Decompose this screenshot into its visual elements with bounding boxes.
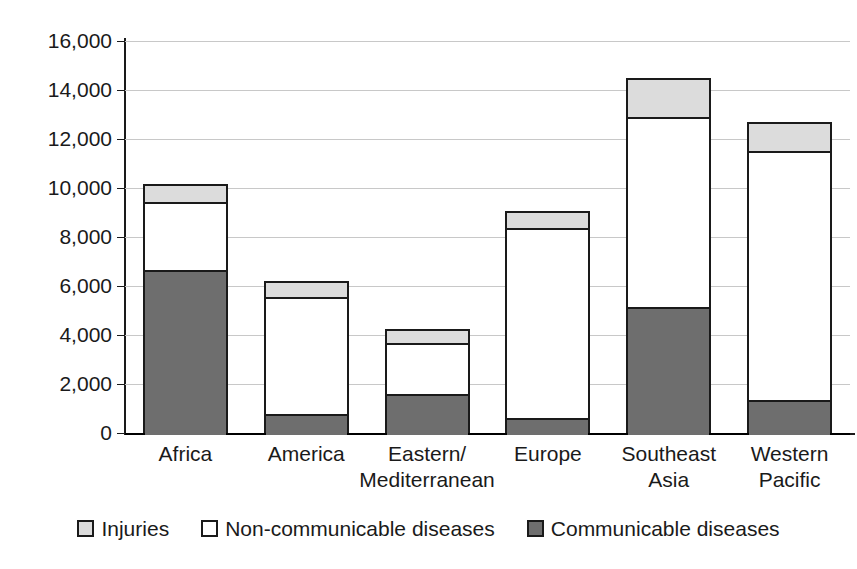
bar-segment-injuries[interactable] (266, 283, 347, 299)
y-axis-tick-mark (117, 41, 124, 42)
y-axis-tick-label: 12,000 (4, 128, 112, 149)
bar-segment-communicable[interactable] (266, 416, 347, 435)
legend-label: Non-communicable diseases (225, 518, 495, 539)
bar-segment-noncommunicable[interactable] (266, 299, 347, 416)
y-axis-tick-label: 16,000 (4, 30, 112, 51)
y-axis-tick-mark (117, 335, 124, 336)
legend-swatch-icon (77, 520, 94, 537)
y-axis-tick-mark (117, 90, 124, 91)
legend-item[interactable]: Communicable diseases (527, 518, 780, 539)
y-axis-tick-mark (117, 188, 124, 189)
legend-item[interactable]: Non-communicable diseases (201, 518, 495, 539)
x-axis-category-labels: AfricaAmericaEastern/MediterraneanEurope… (125, 441, 850, 503)
y-axis-tick-label: 6,000 (4, 275, 112, 296)
category-label-line-2: Mediterranean (349, 467, 506, 493)
y-axis-tick-mark (117, 237, 124, 238)
stacked-bar[interactable] (626, 78, 711, 433)
bar-segment-noncommunicable[interactable] (507, 230, 588, 420)
bar-segment-injuries[interactable] (387, 331, 468, 345)
bar-segment-noncommunicable[interactable] (387, 345, 468, 396)
bar-segment-injuries[interactable] (628, 80, 709, 119)
stacked-bar[interactable] (385, 329, 470, 433)
y-axis-tick-label: 14,000 (4, 79, 112, 100)
bar-segment-communicable[interactable] (145, 272, 226, 435)
legend-label: Injuries (101, 518, 169, 539)
x-axis-category-label: WesternPacific (711, 441, 857, 493)
category-label-line-1: Eastern/ (388, 442, 466, 465)
plot-area (125, 41, 850, 433)
bar-segment-communicable[interactable] (628, 309, 709, 435)
x-axis-line (124, 433, 855, 435)
y-axis-tick-mark (117, 433, 124, 434)
y-axis-tick-labels: 16,00014,00012,00010,0008,0006,0004,0002… (0, 41, 112, 433)
bar-segment-injuries[interactable] (749, 124, 830, 153)
bar-segment-communicable[interactable] (507, 420, 588, 435)
legend-swatch-icon (201, 520, 218, 537)
y-axis-tick-mark (117, 384, 124, 385)
stacked-bar[interactable] (264, 281, 349, 433)
bar-series-container (125, 41, 850, 433)
y-axis-tick-label: 2,000 (4, 373, 112, 394)
y-axis-tick-label: 10,000 (4, 177, 112, 198)
bar-segment-communicable[interactable] (749, 402, 830, 435)
bar-group (626, 41, 711, 433)
bar-group (385, 41, 470, 433)
legend-swatch-icon (527, 520, 544, 537)
stacked-bar-chart-figure: 16,00014,00012,00010,0008,0006,0004,0002… (0, 0, 857, 569)
bar-segment-injuries[interactable] (507, 213, 588, 231)
bar-segment-noncommunicable[interactable] (145, 204, 226, 272)
bar-group (747, 41, 832, 433)
y-axis-tick-label: 4,000 (4, 324, 112, 345)
category-label-line-1: Southeast (621, 442, 716, 465)
chart-legend: InjuriesNon-communicable diseasesCommuni… (0, 518, 857, 539)
category-label-line-2: Pacific (711, 467, 857, 493)
stacked-bar[interactable] (505, 211, 590, 433)
bar-group (143, 41, 228, 433)
y-axis-tick-mark (117, 286, 124, 287)
y-axis-tick-mark (117, 139, 124, 140)
bar-group (505, 41, 590, 433)
bar-segment-injuries[interactable] (145, 186, 226, 204)
category-label-line-1: America (268, 442, 345, 465)
stacked-bar[interactable] (747, 122, 832, 433)
bar-segment-noncommunicable[interactable] (628, 119, 709, 309)
y-axis-tick-label: 0 (4, 422, 112, 443)
category-label-line-1: Africa (159, 442, 213, 465)
category-label-line-1: Europe (514, 442, 582, 465)
legend-item[interactable]: Injuries (77, 518, 169, 539)
bar-group (264, 41, 349, 433)
legend-label: Communicable diseases (551, 518, 780, 539)
category-label-line-1: Western (751, 442, 829, 465)
bar-segment-noncommunicable[interactable] (749, 153, 830, 402)
stacked-bar[interactable] (143, 184, 228, 433)
y-axis-tick-label: 8,000 (4, 226, 112, 247)
bar-segment-communicable[interactable] (387, 396, 468, 435)
